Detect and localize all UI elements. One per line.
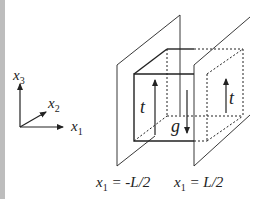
diagram-canvas: x3 x2 x1 t t g x1 = -L/2 x1 = L/2 — [0, 0, 271, 199]
traction-label-right: t — [229, 88, 235, 108]
gravity-label: g — [171, 116, 180, 136]
cube-visible-edges — [134, 49, 194, 141]
left-plane-equation: x1 = -L/2 — [95, 174, 151, 193]
x3-label: x3 — [12, 67, 25, 86]
left-plane — [117, 15, 180, 166]
x2-label: x2 — [47, 95, 60, 114]
x2-axis-arrow — [20, 112, 46, 127]
cube-hidden-edges — [134, 49, 243, 141]
right-plane — [194, 17, 250, 166]
right-plane-equation: x1 = L/2 — [173, 174, 224, 193]
x1-label: x1 — [70, 118, 83, 137]
traction-label-left: t — [140, 97, 146, 117]
